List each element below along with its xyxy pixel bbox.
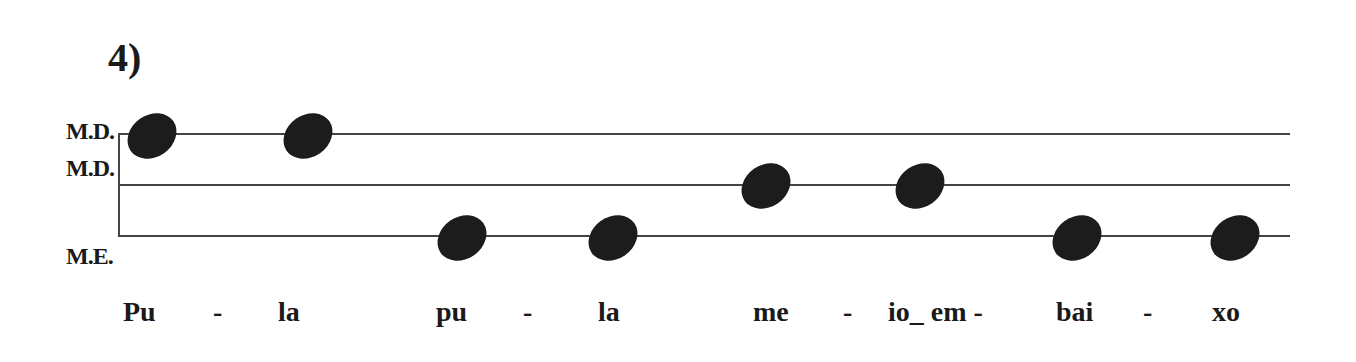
lyric-syllable: - <box>213 296 222 328</box>
note-head-icon <box>1202 206 1269 270</box>
lyric-syllable: la <box>278 296 300 328</box>
staff-label-me: M.E. <box>66 243 113 270</box>
note-head-icon <box>580 206 647 270</box>
lyric-syllable: pu <box>436 296 467 328</box>
lyric-syllable: Pu <box>123 296 156 328</box>
exercise-number: 4) <box>108 34 141 81</box>
lyric-syllable: - <box>523 296 532 328</box>
lyric-syllable: - <box>1143 296 1152 328</box>
lyric-syllable: xo <box>1212 296 1240 328</box>
note-head-icon <box>429 206 496 270</box>
note-head-icon <box>1044 206 1111 270</box>
note-head-icon <box>119 104 186 168</box>
note-head-icon <box>275 104 342 168</box>
staff-label-md-top: M.D. <box>66 118 114 145</box>
lyric-syllable: la <box>598 296 620 328</box>
lyric-syllable: - <box>843 296 852 328</box>
staff-line-md <box>118 184 1290 186</box>
lyric-syllable: io_ em - <box>888 296 983 328</box>
lyric-syllable: bai <box>1056 296 1093 328</box>
note-head-icon <box>733 154 800 218</box>
lyric-syllable: me <box>753 296 789 328</box>
staff-label-md: M.D. <box>66 155 114 182</box>
note-head-icon <box>887 154 954 218</box>
staff-line-me <box>118 235 1290 237</box>
